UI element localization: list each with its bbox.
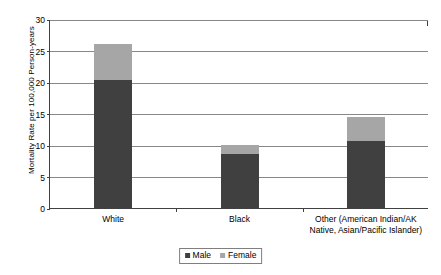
y-tick-label: 15 — [36, 110, 45, 119]
y-tick-label: 30 — [36, 16, 45, 25]
y-tick-label: 10 — [36, 142, 45, 151]
chart-container: Mortality Rate per 100,000 Person-years … — [0, 0, 441, 275]
legend-swatch-icon — [185, 253, 190, 258]
plot-area: 051015202530 WhiteBlackOther (American I… — [49, 20, 428, 209]
legend-swatch-icon — [220, 253, 225, 258]
y-tick-label: 0 — [40, 205, 45, 214]
x-tick-mark — [303, 208, 304, 212]
y-tick-mark — [47, 209, 50, 210]
x-tick-mark — [176, 208, 177, 212]
legend-label: Female — [228, 251, 256, 260]
legend-label: Male — [193, 251, 211, 260]
y-axis-title: Mortality Rate per 100,000 Person-years — [27, 0, 37, 200]
legend-item[interactable]: Female — [220, 251, 256, 260]
y-tick-label: 5 — [40, 173, 45, 182]
y-tick-label: 20 — [36, 79, 45, 88]
x-axis-layer: WhiteBlackOther (American Indian/AK Nati… — [50, 20, 428, 208]
chart-legend: MaleFemale — [179, 248, 263, 264]
legend-item[interactable]: Male — [185, 251, 211, 260]
x-axis-label: Other (American Indian/AK Native, Asian/… — [281, 214, 441, 235]
y-tick-label: 25 — [36, 47, 45, 56]
